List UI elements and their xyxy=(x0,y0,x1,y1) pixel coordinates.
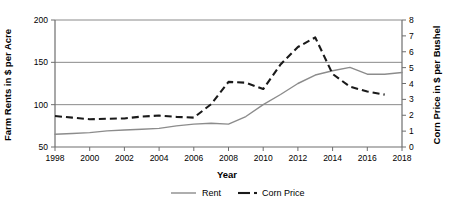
gridlines xyxy=(55,20,402,105)
y-axis-left-title: Farm Rents in $ per Acre xyxy=(2,29,13,141)
y-tick-label-right-6: 6 xyxy=(409,47,414,57)
y-tick-label-right-2: 2 xyxy=(409,110,414,120)
x-tick-label-2004: 2004 xyxy=(150,153,169,163)
y-tick-label-right-3: 3 xyxy=(409,94,414,104)
y-tick-label-right-5: 5 xyxy=(409,63,414,73)
y-tick-label-right-4: 4 xyxy=(409,79,414,89)
y-axis-left-tick-labels: 50100150200 xyxy=(34,15,48,152)
y-tick-label-right-1: 1 xyxy=(409,126,414,136)
legend-label-rent: Rent xyxy=(202,188,222,198)
y-tick-label-left-150: 150 xyxy=(34,57,48,67)
series-line-rent xyxy=(55,67,402,134)
x-tick-label-2000: 2000 xyxy=(80,153,99,163)
x-tick-label-2012: 2012 xyxy=(288,153,307,163)
data-series xyxy=(55,37,402,134)
x-tick-label-2016: 2016 xyxy=(358,153,377,163)
y-axis-right-tick-labels: 012345678 xyxy=(409,15,414,152)
farm-rent-corn-price-chart: 1998200020022004200620082010201220142016… xyxy=(0,0,451,205)
x-tick-label-2002: 2002 xyxy=(115,153,134,163)
x-tick-label-2010: 2010 xyxy=(254,153,273,163)
y-axis-right-title: Corn Price in $ per Bushel xyxy=(431,26,442,145)
y-tick-label-left-100: 100 xyxy=(34,100,48,110)
legend-item-corn-price[interactable]: Corn Price xyxy=(238,188,305,198)
chart-canvas: 1998200020022004200620082010201220142016… xyxy=(0,0,451,205)
y-tick-label-right-0: 0 xyxy=(409,142,414,152)
chart-legend: Rent Corn Price xyxy=(171,188,305,198)
legend-label-corn-price: Corn Price xyxy=(262,188,305,198)
x-tick-label-2008: 2008 xyxy=(219,153,238,163)
series-line-corn-price xyxy=(55,37,385,119)
x-tick-label-2006: 2006 xyxy=(184,153,203,163)
y-tick-label-right-7: 7 xyxy=(409,31,414,41)
y-tick-label-left-200: 200 xyxy=(34,15,48,25)
x-tick-label-1998: 1998 xyxy=(46,153,65,163)
x-axis-tick-labels: 1998200020022004200620082010201220142016… xyxy=(46,153,412,163)
y-tick-label-left-50: 50 xyxy=(39,142,49,152)
y-tick-label-right-8: 8 xyxy=(409,15,414,25)
x-axis-title: Year xyxy=(217,169,237,180)
x-tick-label-2018: 2018 xyxy=(393,153,412,163)
legend-item-rent[interactable]: Rent xyxy=(171,188,222,198)
x-tick-label-2014: 2014 xyxy=(323,153,342,163)
